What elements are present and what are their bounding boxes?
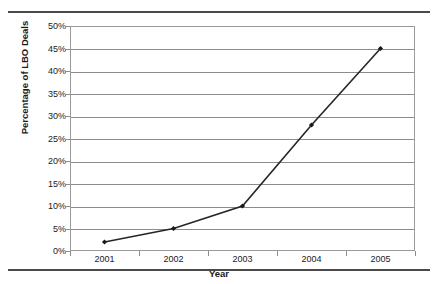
x-axis-tick-mark: [70, 251, 71, 256]
x-axis-tick-label: 2004: [282, 255, 342, 264]
y-axis-tick-label: 10%: [6, 202, 66, 211]
x-axis-tick-mark: [139, 251, 140, 256]
gridline: [71, 162, 414, 163]
y-axis-tick-label: 25%: [6, 135, 66, 144]
gridline: [71, 49, 414, 50]
gridline: [71, 207, 414, 208]
x-axis-tick-mark: [277, 251, 278, 256]
gridline: [71, 117, 414, 118]
x-axis-tick-label: 2003: [213, 255, 273, 264]
gridline: [71, 139, 414, 140]
x-axis-tick-label: 2002: [144, 255, 204, 264]
gridline: [71, 184, 414, 185]
y-axis-tick-label: 20%: [6, 157, 66, 166]
x-axis-tick-mark: [208, 251, 209, 256]
gridline: [71, 94, 414, 95]
gridline: [71, 72, 414, 73]
plot-area: [70, 26, 415, 251]
y-axis-tick-label: 35%: [6, 90, 66, 99]
line-chart-figure: Percentage of LBO Deals 0%5%10%15%20%25%…: [0, 12, 438, 269]
y-axis-tick-label: 30%: [6, 112, 66, 121]
x-axis-tick-label: 2005: [351, 255, 411, 264]
y-axis-tick-label: 15%: [6, 180, 66, 189]
y-axis-tick-label: 5%: [6, 225, 66, 234]
clipped-chart-title: [0, 0, 438, 2]
x-axis-tick-label: 2001: [75, 255, 135, 264]
bottom-horizontal-rule: [8, 269, 430, 271]
gridline: [71, 229, 414, 230]
y-axis-tick-label: 45%: [6, 45, 66, 54]
y-axis-tick-label: 50%: [6, 22, 66, 31]
y-axis-tick-label: 40%: [6, 67, 66, 76]
x-axis-tick-mark: [415, 251, 416, 256]
x-axis-tick-mark: [346, 251, 347, 256]
y-axis-tick-label: 0%: [6, 247, 66, 256]
